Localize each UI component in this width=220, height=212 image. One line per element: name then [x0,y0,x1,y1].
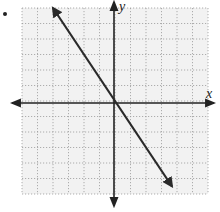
y-axis-label: y [117,0,126,14]
coordinate-plane: x y [0,0,220,212]
x-axis-label: x [205,86,213,101]
